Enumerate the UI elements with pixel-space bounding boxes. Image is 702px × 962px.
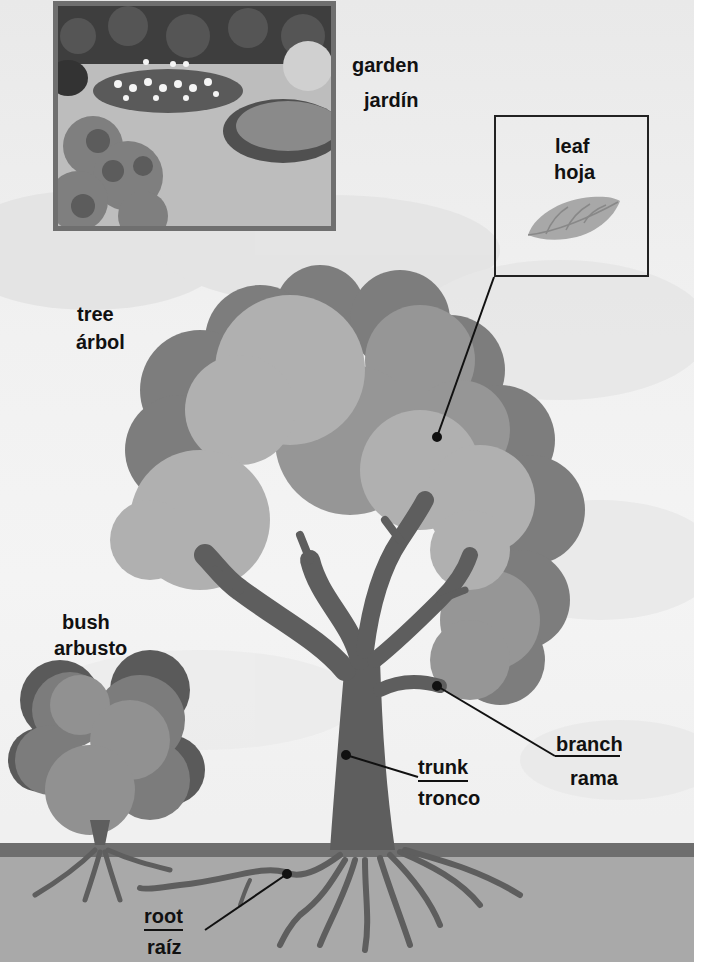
label-root-en: root [144,904,183,931]
label-branch-en: branch [556,732,623,756]
label-branch-es: rama [570,766,618,790]
label-leaf-es: hoja [554,160,595,184]
garden-photo [53,1,336,231]
label-garden-en: garden [352,53,419,77]
label-root-es: raíz [147,935,181,959]
label-garden-es: jardín [364,88,418,112]
ground [0,856,694,962]
label-leaf-en: leaf [555,134,589,158]
label-trunk-es: tronco [418,786,480,810]
garden-illustration [58,6,331,226]
label-bush-es: arbusto [54,636,127,660]
label-trunk-en: trunk [418,755,468,782]
vocabulary-illustration: garden jardín leaf hoja tree árbol bush … [0,0,694,962]
label-tree-en: tree [77,302,114,326]
label-tree-es: árbol [76,330,125,354]
label-bush-en: bush [62,610,110,634]
